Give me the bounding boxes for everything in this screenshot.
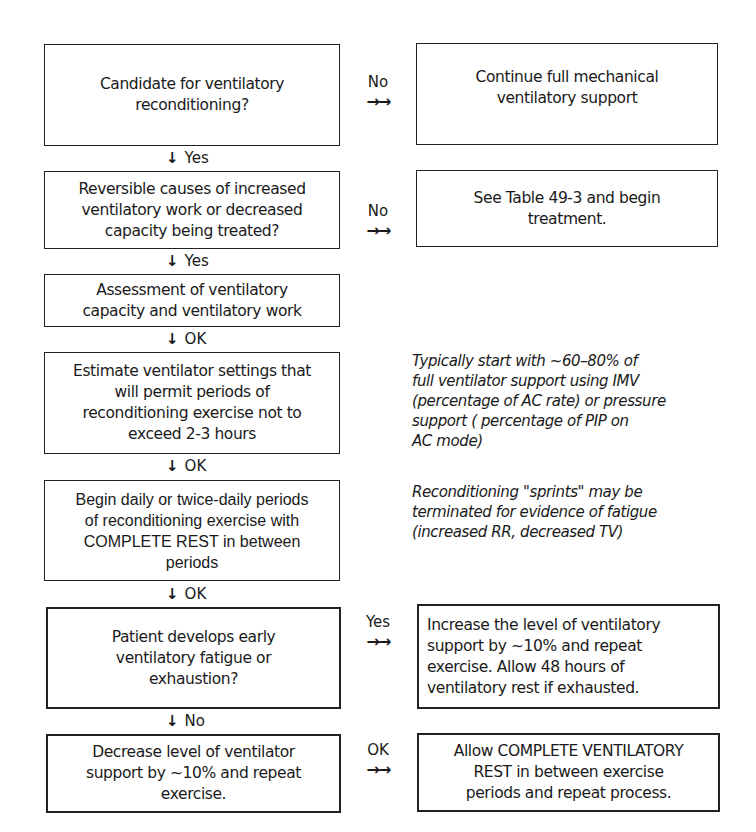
outcome-text: Continue full mechanical [476, 67, 659, 88]
note-text: Typically start with ~60–80% of [412, 351, 666, 371]
note-typical-start: Typically start with ~60–80% of full ven… [412, 351, 666, 451]
outcome-text: Increase the level of ventilatory [427, 615, 660, 636]
step-text: Candidate for ventilatory [100, 74, 284, 95]
step-text: capacity being treated? [105, 221, 279, 242]
outcome-allow-rest: Allow COMPLETE VENTILATORY REST in betwe… [417, 733, 720, 812]
step-candidate: Candidate for ventilatory reconditioning… [44, 44, 340, 146]
down-arrow-icon: ↓ [166, 585, 179, 603]
step-text: of reconditioning exercise with [85, 510, 299, 531]
side-connector-yes: Yes →→ [353, 612, 403, 652]
note-sprints: Reconditioning "sprints" may be terminat… [412, 482, 657, 542]
note-text: terminated for evidence of fatigue [412, 502, 657, 522]
outcome-continue: Continue full mechanical ventilatory sup… [416, 43, 718, 145]
connector-label: OK [185, 330, 207, 348]
outcome-text: See Table 49-3 and begin [474, 188, 661, 209]
step-text: exceed 2-3 hours [128, 424, 256, 445]
step-text: capacity and ventilatory work [82, 301, 301, 322]
note-text: (increased RR, decreased TV) [412, 522, 657, 542]
down-arrow-icon: ↓ [166, 252, 179, 270]
step-text: ventilatory work or decreased [82, 200, 303, 221]
note-text: AC mode) [412, 431, 666, 451]
step-text: periods [166, 552, 218, 573]
side-connector-no: No →→ [353, 72, 403, 112]
outcome-see-table: See Table 49-3 and begin treatment. [416, 170, 718, 247]
connector-ok: ↓OK [166, 585, 206, 603]
side-connector-no: No →→ [353, 201, 403, 241]
step-text: Estimate ventilator settings that [73, 361, 311, 382]
outcome-text: ventilatory support [497, 88, 638, 109]
step-text: will permit periods of [115, 382, 270, 403]
outcome-text: periods and repeat process. [466, 783, 672, 804]
step-text: exhaustion? [149, 669, 238, 690]
step-estimate: Estimate ventilator settings that will p… [44, 352, 340, 454]
outcome-text: ventilatory rest if exhausted. [427, 678, 639, 699]
note-text: support ( percentage of PIP on [412, 411, 666, 431]
connector-label: Yes [353, 612, 403, 632]
connector-label: No [353, 72, 403, 92]
note-text: (percentage of AC rate) or pressure [412, 391, 666, 411]
connector-label: Yes [185, 252, 209, 270]
double-right-arrow-icon: →→ [353, 221, 403, 241]
step-begin: Begin daily or twice-daily periods of re… [44, 480, 340, 581]
step-reversible: Reversible causes of increased ventilato… [44, 171, 340, 249]
outcome-increase: Increase the level of ventilatory suppor… [417, 604, 720, 709]
step-text: Patient develops early [112, 627, 276, 648]
outcome-text: treatment. [528, 209, 607, 230]
double-right-arrow-icon: →→ [353, 92, 403, 112]
step-text: ventilatory fatigue or [116, 648, 271, 669]
connector-ok: ↓OK [166, 457, 206, 475]
step-text: Decrease level of ventilator [92, 742, 295, 763]
step-text: COMPLETE REST in between [84, 531, 301, 552]
step-text: support by ~10% and repeat [86, 763, 301, 784]
outcome-text: support by ~10% and repeat [427, 636, 642, 657]
connector-label: No [353, 201, 403, 221]
double-right-arrow-icon: →→ [353, 632, 403, 652]
down-arrow-icon: ↓ [166, 712, 179, 730]
connector-ok: ↓OK [166, 330, 206, 348]
connector-label: OK [353, 740, 403, 760]
down-arrow-icon: ↓ [166, 330, 179, 348]
connector-no: ↓No [166, 712, 205, 730]
step-text: reconditioning exercise not to [83, 403, 302, 424]
note-text: Reconditioning "sprints" may be [412, 482, 657, 502]
double-right-arrow-icon: →→ [353, 760, 403, 780]
outcome-text: Allow COMPLETE VENTILATORY [454, 741, 684, 762]
connector-label: OK [185, 457, 207, 475]
note-text: full ventilator support using IMV [412, 371, 666, 391]
step-text: Assessment of ventilatory [96, 280, 288, 301]
step-text: exercise. [161, 784, 226, 805]
outcome-text: exercise. Allow 48 hours of [427, 657, 624, 678]
outcome-text: REST in between exercise [473, 762, 663, 783]
connector-label: OK [185, 585, 207, 603]
side-connector-ok: OK →→ [353, 740, 403, 780]
connector-label: No [185, 712, 205, 730]
step-text: reconditioning? [135, 95, 248, 116]
step-text: Begin daily or twice-daily periods [76, 489, 309, 510]
step-assessment: Assessment of ventilatory capacity and v… [44, 274, 340, 327]
step-text: Reversible causes of increased [78, 179, 305, 200]
connector-label: Yes [185, 149, 209, 167]
connector-yes: ↓Yes [166, 149, 209, 167]
step-decrease: Decrease level of ventilator support by … [46, 734, 341, 813]
down-arrow-icon: ↓ [166, 457, 179, 475]
down-arrow-icon: ↓ [166, 149, 179, 167]
step-fatigue: Patient develops early ventilatory fatig… [46, 607, 341, 709]
connector-yes: ↓Yes [166, 252, 209, 270]
